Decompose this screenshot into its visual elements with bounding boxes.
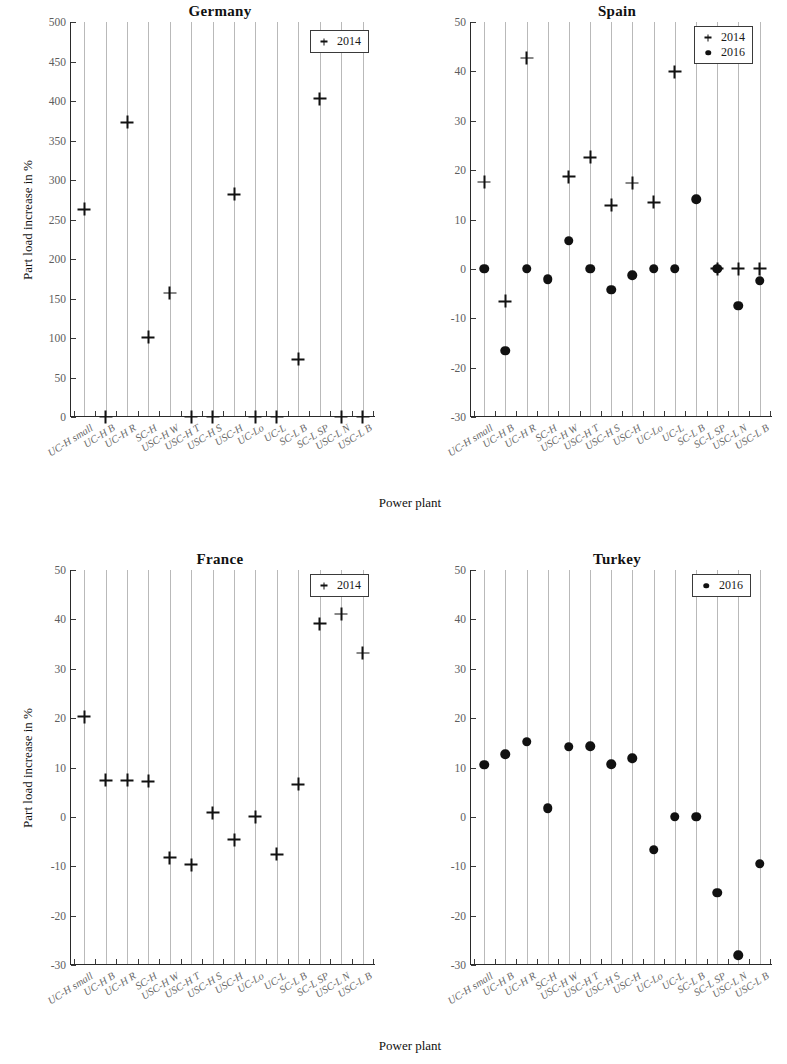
plot-area-france — [70, 570, 375, 965]
data-point-2016 — [713, 264, 723, 274]
dot-marker-icon — [700, 46, 716, 59]
plot-area-turkey — [470, 570, 772, 965]
gridline-vertical — [127, 570, 128, 964]
data-point-2016 — [691, 812, 701, 822]
x-tick-labels-turkey: UC-H smallUC-H BUC-H RSC-HUSC-H WUSC-H T… — [470, 970, 772, 1040]
y-axis-tick-label: 50 — [428, 16, 466, 28]
plot-area-spain — [470, 22, 772, 417]
x-axis-tick — [95, 959, 96, 964]
y-axis-tick — [471, 22, 476, 23]
panel-title-germany: Germany — [60, 3, 380, 20]
y-axis-tick — [71, 570, 76, 571]
data-point-2014 — [163, 286, 176, 299]
y-axis-tick — [471, 269, 476, 270]
gridline-vertical — [148, 570, 149, 964]
y-axis-tick — [471, 220, 476, 221]
y-axis-tick — [71, 965, 76, 966]
x-axis-tick — [95, 411, 96, 416]
gridline-vertical — [213, 570, 214, 964]
data-point-2014 — [142, 775, 155, 788]
x-axis-tick — [580, 959, 581, 964]
figure-root: Germany UC-H smallUC-H BUC-H RSC-HUSC-H … — [0, 0, 787, 1064]
data-point-2014 — [584, 151, 597, 164]
y-axis-tick-label: 30 — [428, 663, 466, 675]
y-axis-tick-label: 10 — [428, 762, 466, 774]
y-axis-tick — [71, 866, 76, 867]
data-point-2014 — [206, 806, 219, 819]
data-point-2014 — [605, 199, 618, 212]
gridline-vertical — [760, 22, 761, 416]
legend-entry-2014[interactable]: 2014 — [316, 578, 361, 593]
gridline-vertical — [590, 570, 591, 964]
gridline-vertical — [191, 22, 192, 416]
y-axis-tick — [71, 62, 76, 63]
legend-france: 2014 — [310, 574, 369, 597]
data-point-2014 — [78, 710, 91, 723]
gridline-vertical — [341, 570, 342, 964]
legend-spain: 20142016 — [694, 26, 753, 64]
gridline-vertical — [170, 570, 171, 964]
gridline-vertical — [611, 22, 612, 416]
gridline-vertical — [277, 22, 278, 416]
gridline-vertical — [548, 22, 549, 416]
legend-entry-2014[interactable]: 2014 — [700, 30, 745, 45]
legend-entry-2016[interactable]: 2016 — [698, 578, 743, 593]
plus-marker-icon — [316, 35, 332, 48]
data-point-2016 — [670, 812, 680, 822]
data-point-2014 — [185, 858, 198, 871]
panel-france: France UC-H smallUC-H BUC-H RSC-HUSC-H W… — [0, 548, 390, 1048]
plus-marker-icon — [316, 579, 332, 592]
gridline-vertical — [170, 22, 171, 416]
gridline-vertical — [484, 22, 485, 416]
y-axis-tick-label: -10 — [28, 860, 66, 872]
y-axis-tick-label: -20 — [428, 910, 466, 922]
y-axis-tick — [71, 180, 76, 181]
plot-area-germany — [70, 22, 375, 417]
y-axis-tick — [471, 916, 476, 917]
y-axis-title-bottom: Part load increase in % — [20, 678, 36, 858]
gridline-vertical — [527, 570, 528, 964]
data-point-2016 — [522, 264, 532, 274]
y-axis-title-top: Part load increase in % — [20, 130, 36, 310]
dot-marker-icon — [698, 579, 714, 592]
gridline-vertical — [675, 22, 676, 416]
y-axis-tick-label: 0 — [428, 263, 466, 275]
legend-label: 2014 — [332, 34, 361, 49]
y-axis-tick-label: 40 — [428, 65, 466, 77]
data-point-2014 — [313, 617, 326, 630]
gridline-vertical — [632, 22, 633, 416]
x-tick-labels-france: UC-H smallUC-H BUC-H RSC-HUSC-H WUSC-H T… — [70, 970, 375, 1040]
data-point-2014 — [520, 52, 533, 65]
data-point-2016 — [564, 236, 574, 246]
legend-label: 2016 — [716, 45, 745, 60]
panel-title-spain: Spain — [457, 3, 777, 20]
gridline-vertical — [213, 22, 214, 416]
gridline-vertical — [234, 570, 235, 964]
gridline-vertical — [738, 22, 739, 416]
y-axis-tick-label: -30 — [428, 959, 466, 971]
y-axis-tick — [71, 259, 76, 260]
gridline-vertical — [298, 570, 299, 964]
data-point-2014 — [249, 810, 262, 823]
data-point-2016 — [607, 759, 617, 769]
data-point-2016 — [501, 749, 511, 759]
data-point-2016 — [479, 264, 489, 274]
data-point-2014 — [78, 203, 91, 216]
legend-entry-2014[interactable]: 2014 — [316, 34, 361, 49]
data-point-2014 — [99, 774, 112, 787]
x-tick-labels-germany: UC-H smallUC-H BUC-H RSC-HUSC-H WUSC-H T… — [70, 422, 375, 492]
legend-entry-2016[interactable]: 2016 — [700, 45, 745, 60]
panel-turkey: Turkey UC-H smallUC-H BUC-H RSC-HUSC-H W… — [397, 548, 787, 1048]
panel-title-turkey: Turkey — [457, 551, 777, 568]
data-point-2016 — [607, 285, 617, 295]
data-point-2016 — [734, 301, 744, 311]
data-point-2016 — [713, 888, 723, 898]
y-axis-tick — [71, 916, 76, 917]
y-axis-tick — [71, 619, 76, 620]
data-point-2016 — [670, 264, 680, 274]
y-axis-tick-label: 50 — [28, 564, 66, 576]
gridline-vertical — [106, 570, 107, 964]
x-axis-title-bottom: Power plant — [320, 1038, 500, 1054]
gridline-vertical — [106, 22, 107, 416]
y-axis-tick-label: 40 — [428, 613, 466, 625]
